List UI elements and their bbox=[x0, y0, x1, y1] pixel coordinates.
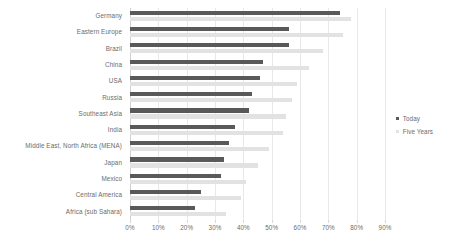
legend-swatch-icon bbox=[396, 117, 399, 120]
x-tick-mark bbox=[357, 220, 358, 223]
bar-row bbox=[130, 204, 385, 220]
bar-today bbox=[130, 60, 263, 64]
x-tick-label: 0% bbox=[125, 224, 134, 231]
bar-row bbox=[130, 155, 385, 171]
x-tick-label: 40% bbox=[237, 224, 250, 231]
bar-five-years bbox=[130, 147, 269, 151]
x-tick-label: 10% bbox=[152, 224, 165, 231]
y-axis-label: Africa (sub Sahara) bbox=[66, 204, 122, 220]
bar-row bbox=[130, 57, 385, 73]
y-axis-label: USA bbox=[109, 73, 122, 89]
bar-today bbox=[130, 43, 289, 47]
y-axis-label: Brazil bbox=[106, 41, 122, 57]
x-tick-mark bbox=[300, 220, 301, 223]
y-axis-label: Mexico bbox=[101, 171, 122, 187]
bar-five-years bbox=[130, 33, 343, 37]
bar-today bbox=[130, 157, 224, 161]
bar-five-years bbox=[130, 163, 258, 167]
bar-five-years bbox=[130, 212, 226, 216]
bar-today bbox=[130, 206, 195, 210]
y-axis-label: Middle East, North Africa (MENA) bbox=[25, 138, 122, 154]
y-axis-category-labels: GermanyEastern EuropeBrazilChinaUSARussi… bbox=[0, 8, 126, 220]
bar-row bbox=[130, 171, 385, 187]
x-axis: 0%10%20%30%40%50%60%70%80%90% bbox=[130, 220, 385, 236]
x-tick-label: 60% bbox=[294, 224, 307, 231]
bar-row bbox=[130, 187, 385, 203]
x-tick-mark bbox=[187, 220, 188, 223]
bar-row bbox=[130, 106, 385, 122]
y-axis-label: India bbox=[108, 122, 122, 138]
x-tick-label: 80% bbox=[350, 224, 363, 231]
bar-five-years bbox=[130, 66, 309, 70]
bar-rows bbox=[130, 8, 385, 220]
bar-row bbox=[130, 8, 385, 24]
bar-today bbox=[130, 76, 260, 80]
bar-today bbox=[130, 174, 221, 178]
y-axis-label: Central America bbox=[76, 187, 122, 203]
x-tick-mark bbox=[272, 220, 273, 223]
gridline-90 bbox=[385, 8, 386, 220]
x-tick-label: 50% bbox=[265, 224, 278, 231]
bar-today bbox=[130, 11, 340, 15]
bar-five-years bbox=[130, 49, 323, 53]
y-axis-label: Japan bbox=[104, 155, 122, 171]
x-tick-mark bbox=[385, 220, 386, 223]
bar-today bbox=[130, 27, 289, 31]
x-tick-mark bbox=[243, 220, 244, 223]
bar-row bbox=[130, 73, 385, 89]
legend-item[interactable]: Five Years bbox=[396, 125, 450, 138]
bar-five-years bbox=[130, 114, 286, 118]
bar-five-years bbox=[130, 82, 297, 86]
x-tick-mark bbox=[328, 220, 329, 223]
bar-row bbox=[130, 41, 385, 57]
bar-row bbox=[130, 138, 385, 154]
y-axis-label: Southeast Asia bbox=[79, 106, 122, 122]
legend-label: Today bbox=[403, 115, 420, 122]
chart-legend: TodayFive Years bbox=[396, 112, 450, 138]
x-tick-label: 20% bbox=[180, 224, 193, 231]
horizontal-bar-chart: GermanyEastern EuropeBrazilChinaUSARussi… bbox=[0, 0, 452, 249]
bar-five-years bbox=[130, 17, 351, 21]
x-tick-mark bbox=[130, 220, 131, 223]
bar-today bbox=[130, 141, 229, 145]
bar-row bbox=[130, 24, 385, 40]
x-tick-label: 70% bbox=[322, 224, 335, 231]
bar-row bbox=[130, 90, 385, 106]
bar-five-years bbox=[130, 98, 292, 102]
y-axis-label: Eastern Europe bbox=[77, 24, 122, 40]
x-tick-label: 30% bbox=[209, 224, 222, 231]
plot-area bbox=[130, 8, 385, 220]
bar-five-years bbox=[130, 180, 246, 184]
bar-five-years bbox=[130, 131, 283, 135]
bar-today bbox=[130, 92, 252, 96]
bar-five-years bbox=[130, 196, 241, 200]
x-tick-mark bbox=[158, 220, 159, 223]
bar-today bbox=[130, 190, 201, 194]
legend-swatch-icon bbox=[396, 130, 399, 133]
bar-today bbox=[130, 108, 249, 112]
x-tick-mark bbox=[215, 220, 216, 223]
y-axis-label: China bbox=[105, 57, 122, 73]
y-axis-label: Germany bbox=[95, 8, 122, 24]
bar-today bbox=[130, 125, 235, 129]
y-axis-label: Russia bbox=[102, 90, 122, 106]
legend-item[interactable]: Today bbox=[396, 112, 450, 125]
x-tick-label: 90% bbox=[379, 224, 392, 231]
legend-label: Five Years bbox=[403, 128, 433, 135]
bar-row bbox=[130, 122, 385, 138]
